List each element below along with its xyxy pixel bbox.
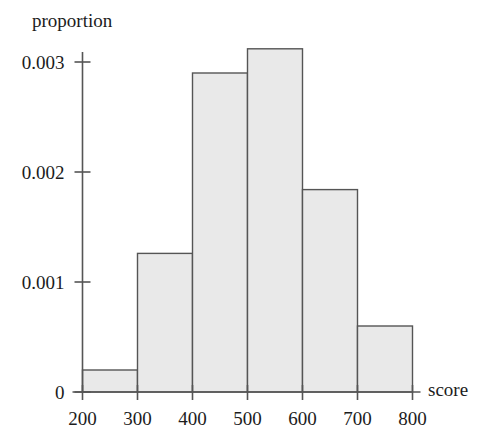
x-tick-label: 200 bbox=[68, 408, 97, 429]
x-tick-label: 600 bbox=[288, 408, 317, 429]
bars-group bbox=[83, 49, 413, 392]
x-tick-label: 700 bbox=[343, 408, 372, 429]
y-tick-label: 0 bbox=[55, 382, 65, 403]
histogram-bar bbox=[248, 49, 303, 392]
y-tick-label: 0.003 bbox=[22, 52, 65, 73]
y-tick-group: 0.0030.0020.0010 bbox=[22, 52, 91, 403]
histogram-bar bbox=[83, 370, 138, 392]
histogram-bar bbox=[303, 190, 358, 392]
x-tick-label: 300 bbox=[123, 408, 152, 429]
histogram-bar bbox=[193, 73, 248, 392]
x-tick-label: 400 bbox=[178, 408, 207, 429]
y-tick-label: 0.002 bbox=[22, 162, 65, 183]
histogram-chart: proportion score 0.0030.0020.0010 200300… bbox=[0, 0, 494, 448]
histogram-bar bbox=[138, 253, 193, 392]
y-tick-label: 0.001 bbox=[22, 272, 65, 293]
x-tick-label: 800 bbox=[398, 408, 427, 429]
plot-area: 0.0030.0020.0010 200300400500600700800 bbox=[0, 0, 494, 448]
histogram-bar bbox=[358, 326, 413, 392]
x-tick-label: 500 bbox=[233, 408, 262, 429]
